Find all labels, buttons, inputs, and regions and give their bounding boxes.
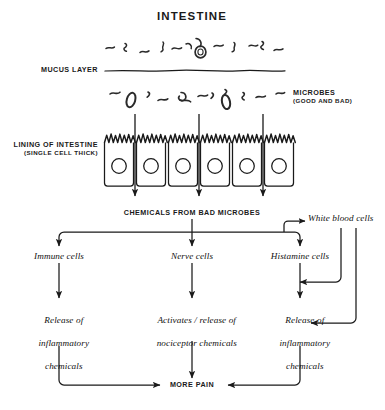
lining-label: LINING OF INTESTINE [14,140,98,149]
chemicals-from-bad-microbes-node: CHEMICALS FROM BAD MICROBES [124,208,260,217]
mucus-layer-line [105,70,285,71]
nerve-release-line-2: nociceptor chemicals [157,338,237,348]
node-histamine-cells: Histamine cells [250,251,350,262]
immune-release-line-1: Release of [44,315,83,325]
node-histamine-release: Release of inflammatory chemicals [245,304,355,384]
lining-sublabel: (SINGLE CELL THICK) [24,149,98,156]
node-immune-release: Release of inflammatory chemicals [4,304,114,384]
connector-chemicals-to-histamine [192,232,300,246]
histamine-release-line-1: Release of [285,315,324,325]
page-title: INTESTINE [157,10,227,22]
diagram-canvas: INTESTINE MUCUS LAYER MICROBES (GOOD AND… [0,0,385,410]
connector-chemicals-to-immune [59,232,192,246]
epithelial-cell-row [105,134,296,186]
nerve-release-line-1: Activates / release of [157,315,236,325]
node-more-pain: MORE PAIN [170,380,214,389]
lumen-microbe-group [110,90,285,110]
node-immune-cells: Immune cells [9,251,109,262]
node-white-blood-cells: White blood cells [308,213,374,224]
chemical-transit-arrows [135,114,263,196]
microbes-sublabel: (GOOD AND BAD) [293,97,352,104]
immune-release-line-3: chemicals [45,361,83,371]
histamine-release-line-2: inflammatory [279,338,330,348]
immune-release-line-2: inflammatory [38,338,89,348]
connector-to-white-blood-cells [284,221,305,232]
node-nerve-cells: Nerve cells [142,251,242,262]
mucus-layer-label: MUCUS LAYER [41,65,98,74]
microbes-label: MICROBES [293,88,335,97]
mucus-microbe-group [106,39,283,58]
histamine-release-line-3: chemicals [286,361,324,371]
